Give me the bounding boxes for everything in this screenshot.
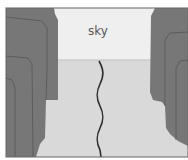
sky-label: sky [88, 24, 108, 38]
